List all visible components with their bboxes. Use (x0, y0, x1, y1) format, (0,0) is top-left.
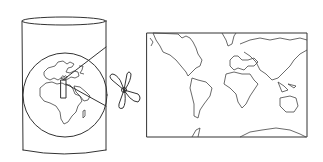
diagram (0, 0, 323, 162)
cylinder (22, 17, 106, 154)
diagram-canvas (0, 0, 323, 162)
projection-rays (63, 47, 106, 106)
flat-world-map (147, 33, 307, 137)
scissors-icon (110, 72, 140, 109)
globe (23, 53, 107, 137)
